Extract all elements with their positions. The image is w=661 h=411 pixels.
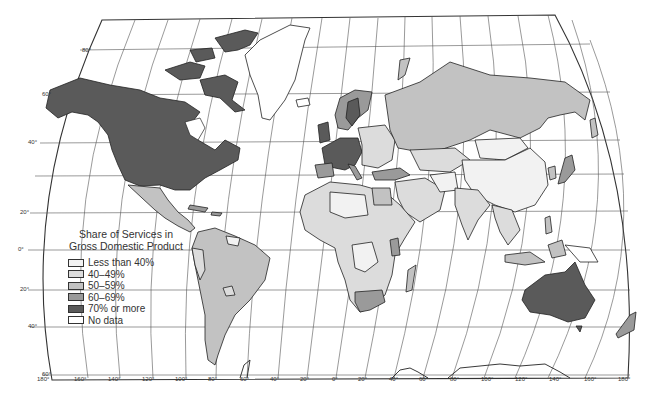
svg-text:60°: 60° [419, 376, 429, 382]
svg-text:60°: 60° [240, 376, 250, 382]
region-new-guinea [565, 245, 598, 262]
svg-text:20°: 20° [20, 286, 30, 292]
legend-item: 40–49% [68, 269, 192, 281]
legend-item: 50–59% [68, 280, 192, 292]
region-australia [522, 262, 595, 322]
region-korea [548, 166, 556, 180]
legend-title-line1: Share of Services in [62, 228, 190, 240]
legend-label: 70% or more [88, 303, 145, 314]
legend-swatch [68, 305, 84, 313]
svg-text:80°: 80° [208, 376, 218, 382]
region-south-africa [355, 290, 385, 312]
svg-text:140°: 140° [108, 376, 121, 382]
region-novaya-zemlya [398, 58, 410, 80]
legend-label: No data [88, 315, 123, 326]
region-italy [348, 164, 362, 180]
legend-title: Share of Services in Gross Domestic Prod… [62, 228, 190, 252]
legend-label: 50–59% [88, 280, 125, 291]
map-legend: Share of Services in Gross Domestic Prod… [62, 228, 192, 326]
svg-text:120°: 120° [142, 376, 155, 382]
svg-text:100°: 100° [175, 376, 188, 382]
svg-text:40°: 40° [270, 376, 280, 382]
region-sakhalin [590, 118, 598, 138]
region-tasmania [576, 326, 582, 332]
region-central-asia [410, 148, 470, 172]
svg-text:20°: 20° [20, 209, 30, 215]
legend-label: Less than 40% [88, 257, 154, 268]
region-uk [318, 122, 330, 143]
region-new-zealand [616, 312, 636, 338]
region-sahara [330, 192, 368, 218]
region-philippines [545, 216, 552, 234]
region-madagascar [406, 265, 416, 292]
svg-text:80°: 80° [82, 47, 92, 53]
svg-text:180°: 180° [618, 376, 631, 382]
legend-swatch [68, 316, 84, 324]
region-turkey [372, 168, 410, 180]
region-iberia [315, 163, 334, 178]
region-kenya [390, 238, 400, 256]
region-japan [558, 155, 575, 184]
region-egypt [372, 188, 392, 205]
svg-text:140°: 140° [549, 376, 562, 382]
svg-text:40°: 40° [28, 323, 38, 329]
legend-label: 40–49% [88, 269, 125, 280]
region-iceland [296, 98, 310, 107]
legend-item: No data [68, 315, 192, 327]
svg-text:100°: 100° [481, 376, 494, 382]
legend-label: 60–69% [88, 292, 125, 303]
region-russia [385, 62, 590, 152]
svg-text:40°: 40° [389, 376, 399, 382]
legend-swatch [68, 270, 84, 278]
svg-text:160°: 160° [74, 376, 87, 382]
legend-item: Less than 40% [68, 257, 192, 269]
svg-text:120°: 120° [515, 376, 528, 382]
svg-text:60°: 60° [42, 91, 52, 97]
svg-text:0°: 0° [332, 376, 338, 382]
legend-swatch [68, 282, 84, 290]
svg-text:20°: 20° [358, 376, 368, 382]
legend-title-line2: Gross Domestic Product [62, 240, 190, 252]
region-indonesia [505, 240, 566, 265]
svg-text:160°: 160° [584, 376, 597, 382]
region-mexico [128, 185, 195, 232]
longitude-labels: 180° 160° 140° 120° 100° 80° 60° 40° 20°… [37, 376, 631, 382]
legend-swatch [68, 259, 84, 267]
svg-text:0°: 0° [18, 246, 24, 252]
world-map: 80° 60° 40° 20° 0° 20° 40° 60° 180° 160°… [0, 0, 661, 411]
svg-text:180°: 180° [37, 376, 50, 382]
legend-item: 60–69% [68, 292, 192, 304]
svg-text:80°: 80° [450, 376, 460, 382]
legend-swatch [68, 293, 84, 301]
svg-text:40°: 40° [28, 139, 38, 145]
region-eastern-europe [358, 125, 395, 168]
legend-item: 70% or more [68, 303, 192, 315]
svg-text:20°: 20° [300, 376, 310, 382]
region-south-america [192, 228, 270, 365]
